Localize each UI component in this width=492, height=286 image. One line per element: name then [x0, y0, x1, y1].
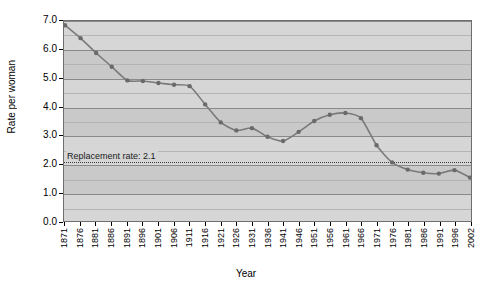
x-tick-label: 1926: [231, 228, 241, 248]
x-tick-label: 1981: [403, 228, 413, 248]
data-point: [250, 126, 254, 130]
x-tick-label: 1941: [278, 228, 288, 248]
x-axis-label: Year: [0, 268, 492, 279]
x-tick-mark: [80, 222, 81, 226]
data-point: [110, 65, 114, 69]
x-tick-label: 1881: [90, 228, 100, 248]
x-tick-mark: [283, 222, 284, 226]
data-point: [359, 116, 363, 120]
x-tick-mark: [252, 222, 253, 226]
y-tick-label: 7.0: [43, 15, 57, 25]
x-tick-label: 1996: [450, 228, 460, 248]
x-tick-mark: [174, 222, 175, 226]
data-point: [78, 36, 82, 40]
x-tick-mark: [299, 222, 300, 226]
data-point: [281, 139, 285, 143]
data-point: [421, 171, 425, 175]
x-tick-mark: [377, 222, 378, 226]
x-tick-label: 1871: [59, 228, 69, 248]
data-point: [296, 130, 300, 134]
x-tick-label: 1966: [356, 228, 366, 248]
x-tick-label: 1906: [169, 228, 179, 248]
x-tick-label: 1876: [75, 228, 85, 248]
data-point: [94, 51, 98, 55]
x-tick-mark: [408, 222, 409, 226]
data-point: [141, 79, 145, 83]
data-point: [219, 120, 223, 124]
y-tick-mark: [59, 222, 63, 223]
x-tick-mark: [424, 222, 425, 226]
y-tick-label: 6.0: [43, 44, 57, 54]
data-point: [374, 143, 378, 147]
data-point: [234, 128, 238, 132]
y-tick-label: 0.0: [43, 217, 57, 227]
x-tick-mark: [330, 222, 331, 226]
x-tick-mark: [455, 222, 456, 226]
x-tick-mark: [314, 222, 315, 226]
x-tick-mark: [440, 222, 441, 226]
x-tick-mark: [236, 222, 237, 226]
fertility-markers: [64, 23, 471, 180]
x-tick-mark: [158, 222, 159, 226]
x-tick-label: 1971: [372, 228, 382, 248]
x-tick-mark: [127, 222, 128, 226]
data-point: [172, 83, 176, 87]
x-tick-label: 1921: [216, 228, 226, 248]
x-tick-label: 1891: [122, 228, 132, 248]
x-tick-mark: [268, 222, 269, 226]
y-tick-label: 3.0: [43, 130, 57, 140]
x-tick-mark: [346, 222, 347, 226]
data-point: [312, 119, 316, 123]
x-tick-label: 1931: [247, 228, 257, 248]
data-point: [343, 111, 347, 115]
x-tick-mark: [111, 222, 112, 226]
x-tick-label: 1976: [388, 228, 398, 248]
x-tick-mark: [361, 222, 362, 226]
x-tick-mark: [205, 222, 206, 226]
x-tick-mark: [64, 222, 65, 226]
x-tick-mark: [221, 222, 222, 226]
y-tick-label: 5.0: [43, 73, 57, 83]
x-tick-label: 1901: [153, 228, 163, 248]
x-tick-label: 1896: [137, 228, 147, 248]
data-point: [203, 102, 207, 106]
x-tick-label: 1951: [309, 228, 319, 248]
fertility-line: [65, 25, 470, 177]
x-tick-label: 1956: [325, 228, 335, 248]
data-point: [406, 167, 410, 171]
x-tick-mark: [95, 222, 96, 226]
x-tick-mark: [393, 222, 394, 226]
x-tick-mark: [142, 222, 143, 226]
x-tick-label: 1946: [294, 228, 304, 248]
x-tick-label: 1961: [341, 228, 351, 248]
data-point: [187, 84, 191, 88]
data-point: [156, 81, 160, 85]
x-tick-label: 1916: [200, 228, 210, 248]
y-tick-label: 4.0: [43, 102, 57, 112]
x-tick-label: 1911: [184, 228, 194, 247]
x-tick-label: 1886: [106, 228, 116, 248]
data-point: [437, 171, 441, 175]
y-axis-label: Rate per woman: [6, 60, 17, 133]
y-tick-label: 2.0: [43, 159, 57, 169]
data-series-layer: [64, 21, 471, 221]
plot-area: Replacement rate: 2.1: [63, 20, 472, 222]
data-point: [125, 78, 129, 82]
x-tick-label: 1991: [435, 228, 445, 248]
x-tick-label: 1986: [419, 228, 429, 248]
chart-figure: Rate per woman 0.01.02.03.04.05.06.07.0 …: [0, 0, 492, 286]
x-tick-label: 1936: [263, 228, 273, 248]
x-tick-label: 2002: [466, 228, 476, 248]
data-point: [452, 168, 456, 172]
x-tick-mark: [471, 222, 472, 226]
y-tick-label: 1.0: [43, 188, 57, 198]
data-point: [390, 160, 394, 164]
data-point: [265, 135, 269, 139]
x-tick-mark: [189, 222, 190, 226]
data-point: [328, 113, 332, 117]
